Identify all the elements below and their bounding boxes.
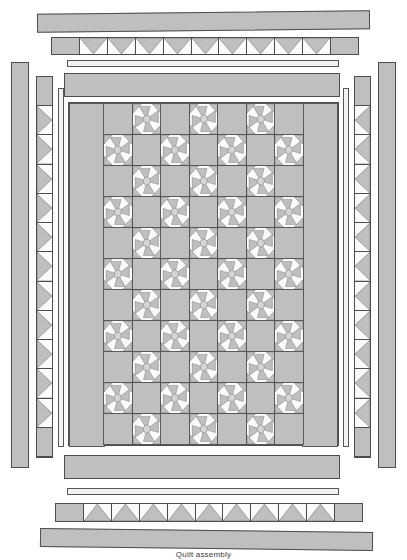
- pinwheel-block: [133, 290, 161, 320]
- triangle-icon: [355, 135, 370, 163]
- pinwheel-block: [133, 104, 161, 134]
- quilt-side-border-right: [302, 103, 338, 447]
- plain-square-block: [218, 228, 246, 258]
- pinwheel-block: [190, 166, 218, 196]
- triangle-icon: [140, 504, 167, 521]
- pinwheel-block: [275, 197, 303, 227]
- plain-square-block: [190, 197, 218, 227]
- sawtooth-triangle: [112, 504, 140, 521]
- sawtooth-triangle: [355, 165, 370, 194]
- sawtooth-triangle: [37, 282, 52, 311]
- sawtooth-triangle: [37, 399, 52, 428]
- sawtooth-triangle: [37, 135, 52, 164]
- plain-square-block: [190, 321, 218, 351]
- pinwheel-icon: [104, 135, 132, 165]
- sawtooth-triangle: [37, 340, 52, 369]
- triangle-icon: [37, 399, 52, 427]
- triangle-icon: [84, 504, 111, 521]
- plain-square-block: [218, 104, 246, 134]
- sawtooth-triangle: [355, 223, 370, 252]
- triangle-icon: [355, 194, 370, 222]
- plain-square-block: [133, 197, 161, 227]
- pinwheel-block: [247, 228, 275, 258]
- pinwheel-icon: [161, 259, 189, 289]
- pinwheel-block: [190, 228, 218, 258]
- triangle-icon: [355, 252, 370, 280]
- pinwheel-icon: [275, 197, 303, 227]
- triangle-icon: [37, 369, 52, 397]
- plain-square-block: [247, 197, 275, 227]
- sawtooth-triangle: [80, 38, 108, 54]
- plain-square-block: [275, 166, 303, 196]
- sawtooth-triangle: [140, 504, 168, 521]
- pinwheel-block: [190, 290, 218, 320]
- plain-square-block: [190, 259, 218, 289]
- sawtooth-triangle: [355, 252, 370, 281]
- sawtooth-triangle: [247, 38, 275, 54]
- pinwheel-block: [247, 166, 275, 196]
- sawtooth-end-square: [331, 38, 358, 54]
- pinwheel-icon: [275, 383, 303, 413]
- sawtooth-triangle: [168, 504, 196, 521]
- plain-square-block: [161, 228, 189, 258]
- triangle-icon: [108, 38, 135, 54]
- sawtooth-triangle: [108, 38, 136, 54]
- pinwheel-icon: [247, 104, 275, 134]
- plain-square-block: [161, 352, 189, 382]
- triangle-icon: [37, 135, 52, 163]
- pinwheel-block: [218, 135, 246, 165]
- triangle-icon: [37, 311, 52, 339]
- triangle-icon: [355, 223, 370, 251]
- pinwheel-icon: [104, 321, 132, 351]
- plain-square-block: [275, 414, 303, 444]
- plain-square-block: [133, 383, 161, 413]
- pinwheel-icon: [190, 414, 218, 444]
- plain-square-block: [104, 414, 132, 444]
- plain-square-block: [104, 228, 132, 258]
- triangle-icon: [307, 504, 334, 521]
- pinwheel-block: [247, 352, 275, 382]
- sawtooth-triangle: [192, 38, 220, 54]
- pinwheel-icon: [190, 290, 218, 320]
- plain-square-block: [275, 104, 303, 134]
- pinwheel-block: [104, 135, 132, 165]
- triangle-icon: [37, 252, 52, 280]
- triangle-icon: [355, 399, 370, 427]
- sawtooth-triangle: [223, 504, 251, 521]
- triangle-icon: [247, 38, 274, 54]
- sawtooth-end-square: [56, 504, 84, 521]
- triangle-icon: [355, 369, 370, 397]
- plain-square-block: [190, 383, 218, 413]
- top-sawtooth-border: [51, 37, 359, 55]
- top-inner-border-strip: [64, 73, 340, 97]
- pinwheel-block: [161, 197, 189, 227]
- pinwheel-block: [218, 383, 246, 413]
- sawtooth-triangle: [196, 504, 224, 521]
- right-outer-border-strip: [378, 62, 396, 468]
- triangle-icon: [164, 38, 191, 54]
- pinwheel-block: [218, 259, 246, 289]
- pinwheel-icon: [247, 290, 275, 320]
- pinwheel-block: [161, 383, 189, 413]
- plain-square-block: [218, 414, 246, 444]
- triangle-icon: [355, 311, 370, 339]
- sawtooth-end-square: [37, 77, 52, 106]
- pinwheel-block: [104, 197, 132, 227]
- pinwheel-icon: [133, 104, 161, 134]
- sawtooth-triangle: [37, 223, 52, 252]
- plain-square-block: [247, 383, 275, 413]
- pinwheel-block: [275, 321, 303, 351]
- sawtooth-end-square: [37, 428, 52, 457]
- triangle-icon: [168, 504, 195, 521]
- pinwheel-icon: [190, 352, 218, 382]
- plain-square-block: [133, 259, 161, 289]
- plain-square-block: [247, 321, 275, 351]
- triangle-icon: [80, 38, 107, 54]
- right-narrow-inner-strip: [343, 88, 349, 447]
- sawtooth-triangle: [355, 282, 370, 311]
- plain-square-block: [218, 166, 246, 196]
- plain-square-block: [190, 135, 218, 165]
- plain-square-block: [161, 290, 189, 320]
- bottom-sawtooth-border: [55, 503, 363, 522]
- plain-square-block: [218, 290, 246, 320]
